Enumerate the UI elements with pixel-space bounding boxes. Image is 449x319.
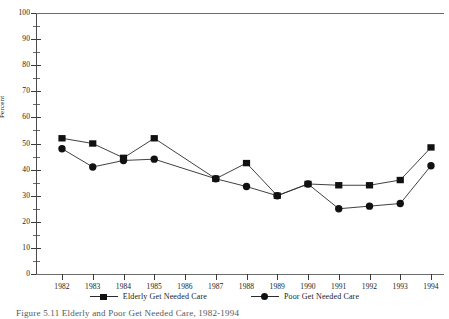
x-tick xyxy=(62,274,63,280)
x-tick xyxy=(124,274,125,280)
x-tick xyxy=(247,274,248,280)
y-tick-label: 60 xyxy=(4,113,30,121)
y-tick-label: 50 xyxy=(4,140,30,148)
legend-circle-marker-icon xyxy=(251,292,279,301)
legend-marker xyxy=(100,294,107,300)
x-tick-label: 1994 xyxy=(411,282,449,291)
legend-item-1[interactable]: Elderly Get Needed Care xyxy=(90,292,207,301)
legend-square-marker-icon xyxy=(90,292,118,301)
y-tick-label: 20 xyxy=(4,218,30,226)
x-tick xyxy=(370,274,371,280)
y-tick-label: 0 xyxy=(4,270,30,278)
figure-caption: Figure 5.11 Elderly and Poor Get Needed … xyxy=(16,308,436,319)
plot-area xyxy=(36,13,444,274)
x-axis-line xyxy=(36,274,444,275)
plot-top-border xyxy=(36,13,444,14)
legend-label: Poor Get Needed Care xyxy=(284,292,359,301)
x-tick xyxy=(400,274,401,280)
x-tick xyxy=(308,274,309,280)
x-tick xyxy=(93,274,94,280)
y-tick-label: 80 xyxy=(4,61,30,69)
y-axis-labels: 0102030405060708090100 xyxy=(0,0,30,319)
y-tick-label: 100 xyxy=(4,9,30,17)
x-tick xyxy=(431,274,432,280)
chart-legend: Elderly Get Needed CarePoor Get Needed C… xyxy=(0,292,449,301)
y-tick-label: 40 xyxy=(4,166,30,174)
x-tick xyxy=(185,274,186,280)
legend-item-2[interactable]: Poor Get Needed Care xyxy=(251,292,359,301)
y-tick-label: 10 xyxy=(4,244,30,252)
y-tick-label: 90 xyxy=(4,35,30,43)
x-tick xyxy=(277,274,278,280)
legend-label: Elderly Get Needed Care xyxy=(123,292,207,301)
x-tick xyxy=(339,274,340,280)
figure-container: Percent 0102030405060708090100 198219831… xyxy=(0,0,449,319)
y-tick-label: 70 xyxy=(4,87,30,95)
x-tick xyxy=(216,274,217,280)
x-tick xyxy=(154,274,155,280)
y-tick-label: 30 xyxy=(4,192,30,200)
legend-marker xyxy=(261,293,268,300)
